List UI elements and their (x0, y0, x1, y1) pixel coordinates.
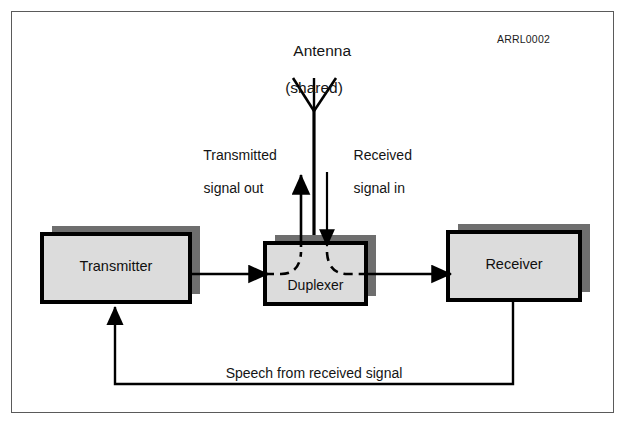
antenna-label-subtitle: (shared) (0, 79, 628, 97)
received-signal-label: Received signal in (338, 130, 412, 213)
receiver-block-label: Receiver (448, 256, 580, 272)
received-signal-label-line2: signal in (354, 180, 405, 196)
transmitter-block-label: Transmitter (42, 258, 190, 274)
transmitted-signal-label-line1: Transmitted (203, 147, 276, 163)
antenna-label-title: Antenna (293, 42, 351, 59)
transmitted-signal-label-line2: signal out (204, 180, 264, 196)
figure-canvas: Antenna (shared) ARRL0002 Transmitted si… (0, 0, 628, 429)
duplexer-block-label: Duplexer (265, 277, 366, 293)
feedback-path-label: Speech from received signal (0, 365, 628, 382)
received-signal-label-line1: Received (354, 147, 412, 163)
transmitted-signal-label: Transmitted signal out (188, 130, 277, 213)
figure-code-label: ARRL0002 (497, 33, 550, 45)
